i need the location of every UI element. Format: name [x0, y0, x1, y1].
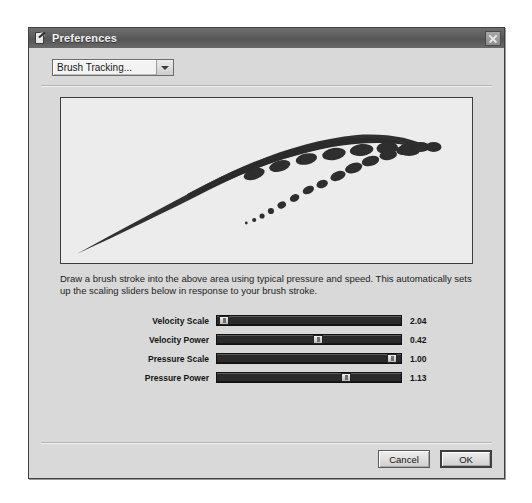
- slider-label-pressure-scale: Pressure Scale: [137, 354, 216, 364]
- slider-label-pressure-power: Pressure Power: [137, 373, 216, 383]
- slider-group: Velocity Scale 2.04 Velocity Power 0.42 …: [41, 314, 492, 384]
- slider-row-velocity-power: Velocity Power 0.42: [137, 333, 492, 346]
- slider-row-velocity-scale: Velocity Scale 2.04: [137, 314, 492, 327]
- ok-button[interactable]: OK: [440, 450, 492, 468]
- title-bar[interactable]: Preferences: [29, 28, 504, 48]
- slider-velocity-scale[interactable]: [216, 315, 402, 326]
- slider-thumb-velocity-scale[interactable]: [219, 316, 229, 325]
- slider-pressure-scale[interactable]: [216, 353, 402, 364]
- slider-value-velocity-power: 0.42: [402, 335, 427, 345]
- category-select[interactable]: Brush Tracking...: [52, 59, 174, 76]
- divider-top: [41, 85, 492, 87]
- dialog-footer: Cancel OK: [378, 450, 492, 468]
- dialog-body: Brush Tracking...: [29, 48, 504, 478]
- divider-footer: [41, 442, 492, 444]
- slider-label-velocity-scale: Velocity Scale: [137, 316, 216, 326]
- close-icon[interactable]: [485, 31, 501, 46]
- slider-thumb-pressure-power[interactable]: [341, 373, 351, 382]
- slider-row-pressure-scale: Pressure Scale 1.00: [137, 352, 492, 365]
- slider-thumb-velocity-power[interactable]: [313, 335, 323, 344]
- slider-value-pressure-power: 1.13: [402, 373, 427, 383]
- category-select-value: Brush Tracking...: [53, 62, 156, 73]
- slider-label-velocity-power: Velocity Power: [137, 335, 216, 345]
- instruction-text: Draw a brush stroke into the above area …: [60, 273, 473, 297]
- cancel-button[interactable]: Cancel: [378, 450, 430, 468]
- slider-value-velocity-scale: 2.04: [402, 316, 427, 326]
- preferences-dialog: Preferences Brush Tracking...: [28, 27, 505, 479]
- preferences-pen-icon: [34, 32, 47, 45]
- slider-row-pressure-power: Pressure Power 1.13: [137, 371, 492, 384]
- slider-thumb-pressure-scale[interactable]: [387, 354, 397, 363]
- window-title: Preferences: [52, 32, 117, 44]
- slider-velocity-power[interactable]: [216, 334, 402, 345]
- brush-stroke-drawing: [61, 98, 472, 263]
- slider-pressure-power[interactable]: [216, 372, 402, 383]
- chevron-down-icon[interactable]: [156, 60, 173, 75]
- slider-value-pressure-scale: 1.00: [402, 354, 427, 364]
- brush-stroke-preview[interactable]: [60, 97, 473, 264]
